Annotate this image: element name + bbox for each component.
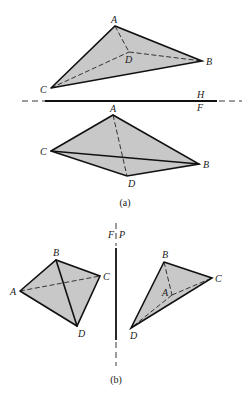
vertex-label-D: D: [129, 330, 138, 341]
vertex-label-A: A: [9, 286, 17, 297]
vertex-label-B: B: [53, 247, 59, 258]
vertex-label-B: B: [162, 249, 168, 260]
vertex-label-C: C: [40, 146, 47, 157]
vertex-label-C: C: [215, 273, 222, 284]
vertex-label-A: A: [109, 103, 117, 114]
fold-label-F: F: [107, 229, 115, 240]
vertex-label-B: B: [206, 56, 212, 67]
vertex-label-A: A: [110, 14, 118, 25]
fold-label-H: H: [196, 89, 205, 100]
vertex-label-C: C: [40, 84, 47, 95]
panel-b-left-view: A B C D: [9, 247, 110, 339]
panel-a-top-view: A B C D: [40, 14, 212, 95]
vertex-label-D: D: [127, 178, 136, 189]
fold-line-FP: F P: [107, 223, 125, 366]
orthographic-projection-figure: A B C D H F A B C D (a) F P A B: [0, 0, 250, 397]
vertex-label-C: C: [103, 271, 110, 282]
vertex-label-D: D: [77, 328, 86, 339]
caption-a: (a): [119, 197, 130, 209]
panel-a-front-view: A B C D: [40, 103, 209, 189]
panel-b-right-view: B C A D: [129, 249, 222, 341]
vertex-label-D: D: [124, 54, 133, 65]
fold-label-P: P: [118, 229, 125, 240]
caption-b: (b): [110, 374, 122, 386]
fold-line-HF: H F: [22, 89, 242, 113]
fold-label-F: F: [196, 102, 204, 113]
vertex-label-A: A: [161, 287, 169, 298]
vertex-label-B: B: [203, 159, 209, 170]
